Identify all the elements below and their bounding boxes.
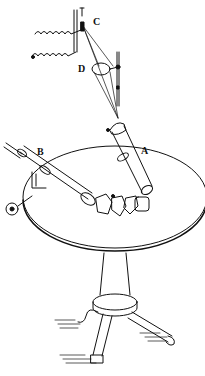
light-cone	[83, 26, 118, 118]
label-d: D	[78, 64, 85, 74]
tabletop	[23, 146, 205, 251]
label-c: C	[93, 17, 100, 27]
label-b: B	[37, 147, 44, 157]
label-a: A	[141, 146, 148, 156]
source-stand	[74, 8, 84, 52]
spectroscope-illustration: C D B A	[0, 0, 205, 376]
telescope-tube-b	[4, 143, 97, 215]
prism-train	[96, 194, 138, 216]
pedestal	[55, 253, 174, 363]
